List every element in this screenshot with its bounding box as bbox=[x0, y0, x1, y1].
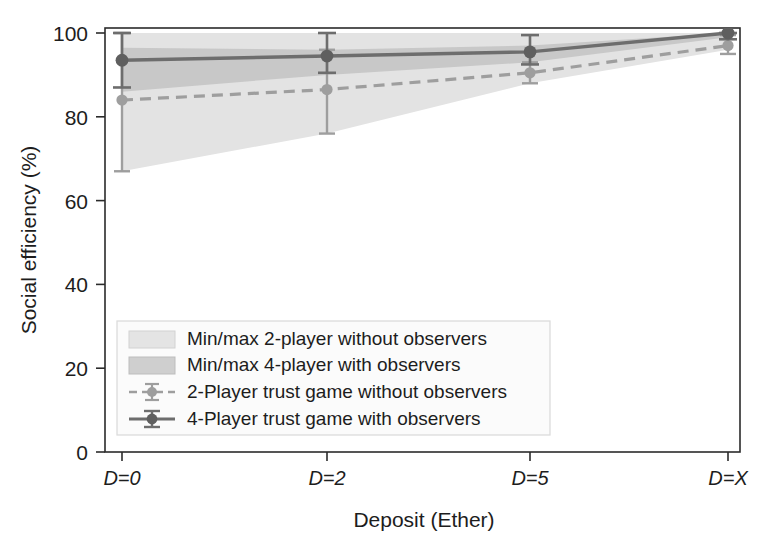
y-tick-label: 60 bbox=[65, 190, 88, 213]
data-point bbox=[116, 94, 127, 105]
data-point bbox=[116, 54, 129, 67]
legend-swatch-band-dark bbox=[129, 357, 175, 374]
chart-figure: 100 80 60 40 20 0 D=0 D=2 D=5 D=X Deposi… bbox=[0, 0, 769, 551]
data-point bbox=[321, 50, 334, 63]
y-tick-label: 40 bbox=[65, 273, 88, 296]
y-tick-label: 20 bbox=[65, 357, 88, 380]
y-tick-label: 100 bbox=[53, 22, 88, 45]
y-tick-label: 80 bbox=[65, 106, 88, 129]
chart-legend: Min/max 2-player without observers Min/m… bbox=[117, 321, 550, 435]
y-tick-label: 0 bbox=[76, 441, 88, 464]
y-axis-title: Social efficiency (%) bbox=[17, 146, 40, 335]
x-tick-label: D=5 bbox=[511, 467, 549, 489]
legend-item-label: 2-Player trust game without observers bbox=[187, 381, 507, 402]
data-point bbox=[722, 40, 733, 51]
legend-swatch-band-light bbox=[129, 331, 175, 348]
x-tick-label: D=2 bbox=[308, 467, 345, 489]
x-axis-title: Deposit (Ether) bbox=[353, 508, 494, 531]
social-efficiency-line-chart: 100 80 60 40 20 0 D=0 D=2 D=5 D=X Deposi… bbox=[0, 0, 769, 551]
data-point bbox=[321, 84, 332, 95]
data-point bbox=[524, 67, 535, 78]
data-point bbox=[524, 45, 537, 58]
legend-item-label: Min/max 2-player without observers bbox=[187, 328, 487, 349]
x-tick-label: D=X bbox=[708, 467, 748, 489]
x-tick-label: D=0 bbox=[103, 467, 140, 489]
legend-item-label: Min/max 4-player with observers bbox=[187, 354, 460, 375]
data-point bbox=[722, 27, 735, 40]
legend-item-label: 4-Player trust game with observers bbox=[187, 408, 481, 429]
